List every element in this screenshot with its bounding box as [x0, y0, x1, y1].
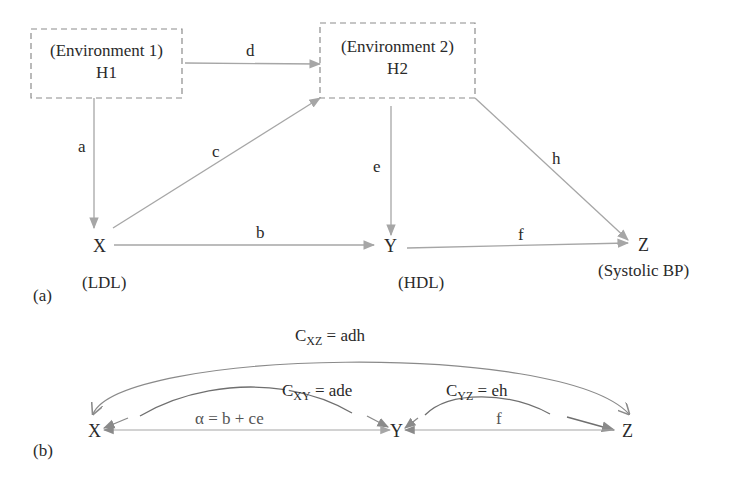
- environment-1-label: (Environment 1) H1: [31, 40, 182, 84]
- panel-b-tag: (b): [33, 442, 53, 459]
- cyz-label: CYZ = eh: [446, 382, 507, 399]
- path-b-label: b: [256, 224, 265, 241]
- alpha-label: α = b + ce: [195, 410, 264, 427]
- node-b-x: X: [88, 422, 101, 440]
- cxy-right-arrow: [367, 416, 388, 427]
- path-a-label: a: [78, 138, 86, 155]
- path-c-arrow: [113, 98, 320, 228]
- node-y-symbol: Y: [384, 237, 397, 255]
- node-x-label: (LDL): [82, 274, 126, 291]
- panel-a-tag: (a): [33, 287, 52, 304]
- path-f-label: f: [518, 226, 524, 243]
- node-b-z: Z: [622, 422, 633, 440]
- node-y-label: (HDL): [398, 274, 444, 291]
- environment-1-title: (Environment 1): [31, 40, 182, 62]
- environment-2-name: H2: [320, 58, 475, 80]
- node-x-symbol: X: [93, 237, 106, 255]
- environment-2-title: (Environment 2): [320, 36, 475, 58]
- path-c-label: c: [212, 143, 220, 160]
- f-label-b: f: [496, 410, 502, 427]
- environment-2-label: (Environment 2) H2: [320, 36, 475, 80]
- path-h-label: h: [552, 150, 561, 167]
- environment-1-name: H1: [31, 62, 182, 84]
- cxy-label: CXY = ade: [282, 382, 352, 399]
- cyz-left-arrow: [405, 418, 418, 428]
- cxz-label: CXZ = adh: [295, 327, 365, 344]
- cxy-left-arrow: [104, 418, 128, 428]
- cxz-curve: [93, 362, 629, 414]
- path-e-label: e: [373, 158, 381, 175]
- node-z-symbol: Z: [638, 236, 649, 254]
- cyz-right-arrow: [567, 417, 614, 430]
- node-z-label: (Systolic BP): [598, 262, 689, 279]
- path-d-arrow: [185, 63, 320, 64]
- path-h-arrow: [475, 98, 628, 240]
- path-d-label: d: [246, 42, 255, 59]
- node-b-y: Y: [390, 422, 403, 440]
